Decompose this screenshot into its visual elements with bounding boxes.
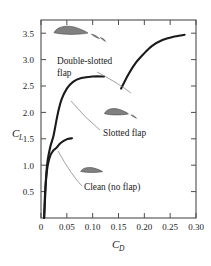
svg-text:L: L <box>18 133 23 142</box>
annotation-clean-no-flap: Clean (no flap) <box>84 182 140 193</box>
chart-figure: 00.050.100.150.200.250.300.51.01.52.02.5… <box>0 0 211 266</box>
x-axis-label: CD <box>112 238 125 253</box>
y-axis-label: CL <box>12 127 23 142</box>
y-tick-label: 0.5 <box>23 187 35 197</box>
x-tick-label: 0 <box>39 222 44 232</box>
x-tick-label: 0.10 <box>85 222 101 232</box>
leader-line-clean-no-flap <box>58 151 82 186</box>
annotation-slotted-flap: Slotted flap <box>103 128 146 138</box>
curve-clean-no-flap <box>44 138 72 218</box>
leader-line-slotted-flap <box>71 101 100 130</box>
x-tick-label: 0.20 <box>136 222 152 232</box>
annotation-label: flap <box>57 68 72 78</box>
curve-double-slotted-flap <box>121 35 185 89</box>
curve-slotted-flap <box>44 76 104 218</box>
x-tick-label: 0.25 <box>162 222 178 232</box>
x-tick-label: 0.05 <box>59 222 75 232</box>
drag-polar-chart: 00.050.100.150.200.250.300.51.01.52.02.5… <box>0 0 211 266</box>
clean-airfoil <box>81 167 103 172</box>
svg-text:D: D <box>118 244 125 253</box>
x-tick-label: 0.30 <box>188 222 204 232</box>
annotation-label: Slotted flap <box>103 128 146 138</box>
leader-line-double-slotted-flap <box>97 72 131 93</box>
slotted-flap-airfoil <box>104 109 136 119</box>
double-slotted-flap-airfoil <box>54 26 106 41</box>
y-tick-label: 1.5 <box>23 134 35 144</box>
annotation-label: Clean (no flap) <box>84 182 140 193</box>
x-tick-label: 0.15 <box>111 222 127 232</box>
annotation-label: Double-slotted <box>57 56 113 66</box>
y-tick-label: 3.0 <box>23 55 35 65</box>
annotation-double-slotted-flap: Double-slottedflap <box>57 56 113 78</box>
y-tick-label: 2.5 <box>23 81 35 91</box>
y-tick-label: 1.0 <box>23 161 35 171</box>
y-tick-label: 3.5 <box>23 29 35 39</box>
y-tick-label: 2.0 <box>23 108 35 118</box>
